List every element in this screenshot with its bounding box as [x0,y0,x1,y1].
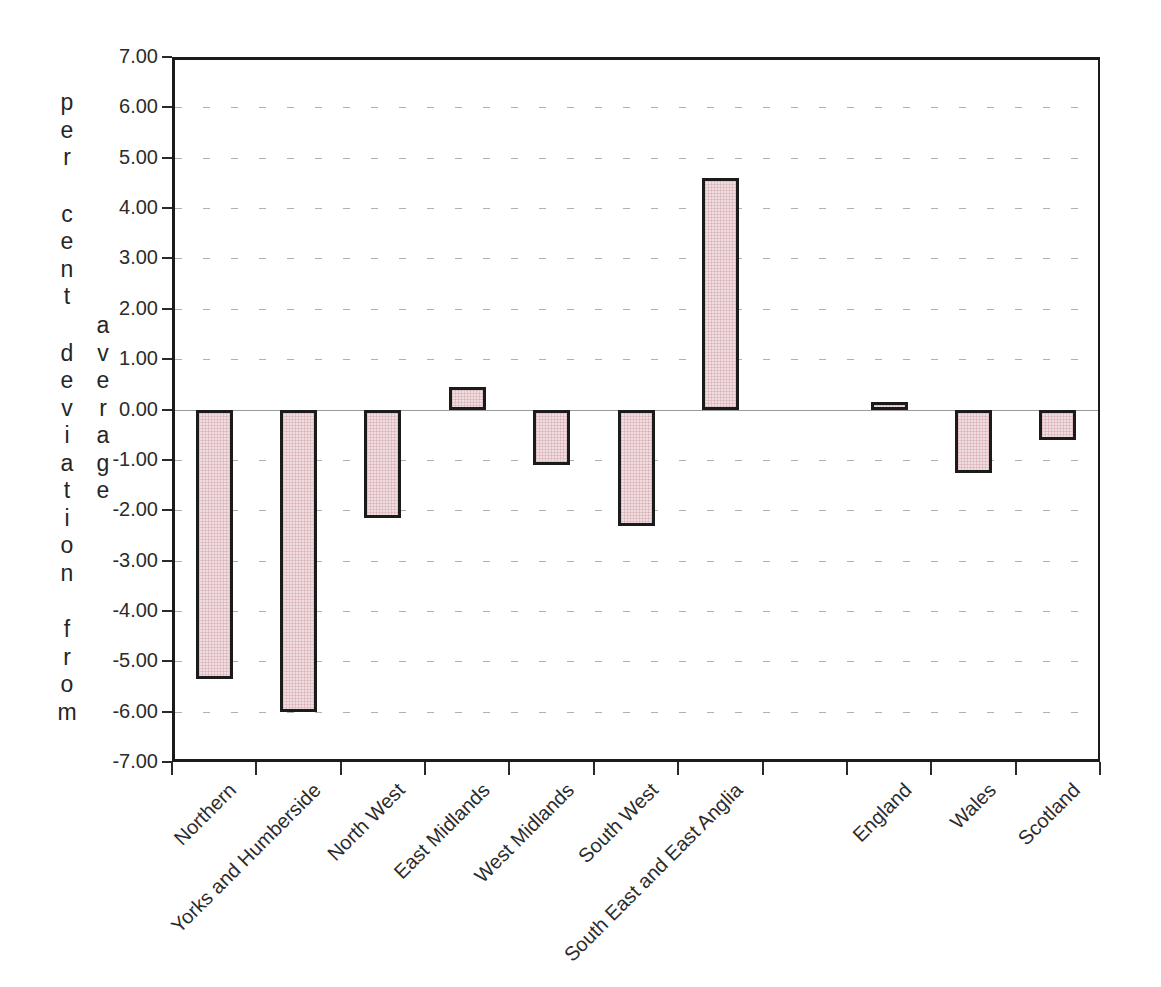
bar-scotland [1039,410,1076,440]
y-axis-tick [162,560,172,562]
bar-east-midlands [449,387,486,410]
x-axis-tick [677,762,679,775]
y-tick-label-5.00: 5.00 [78,146,158,169]
x-axis-tick [255,762,257,775]
x-axis-tick [171,762,173,775]
x-category-label-yorks-and-humberside: Yorks and Humberside [166,778,326,938]
y-tick-label-1.00: 1.00 [78,347,158,370]
x-axis-tick [762,762,764,775]
y-tick-label-2.00: 2.00 [78,297,158,320]
y-axis-tick [162,257,172,259]
y-axis-tick [162,610,172,612]
y-tick-label-7.00: 7.00 [78,45,158,68]
y-tick-label--3.00: -3.00 [78,549,158,572]
x-category-label-south-west: South West [573,778,663,868]
y-tick-label--5.00: -5.00 [78,649,158,672]
y-axis-tick [162,509,172,511]
y-axis-tick [162,308,172,310]
x-category-label-scotland: Scotland [1013,778,1085,850]
x-category-label-northern: Northern [169,778,241,850]
y-tick-label-3.00: 3.00 [78,246,158,269]
bar-south-west [618,410,655,526]
y-tick-label--4.00: -4.00 [78,599,158,622]
bar-yorks-and-humberside [280,410,317,712]
y-tick-label--6.00: -6.00 [78,700,158,723]
y-axis-tick [162,409,172,411]
y-axis-tick [162,358,172,360]
y-axis-tick [162,660,172,662]
x-axis-tick [593,762,595,775]
x-axis-tick [1099,762,1101,775]
y-axis-tick [162,207,172,209]
x-category-label-north-west: North West [322,778,409,865]
x-category-label-south-east-and-east-anglia: South East and East Anglia [559,778,747,966]
x-axis-tick [424,762,426,775]
y-axis-tick [162,711,172,713]
y-axis-tick [162,157,172,159]
x-category-label-england: England [847,778,916,847]
x-category-label-wales: Wales [945,778,1001,834]
bar-northern [196,410,233,679]
y-tick-label--2.00: -2.00 [78,498,158,521]
y-tick-label-0.00: 0.00 [78,398,158,421]
x-axis-tick [340,762,342,775]
x-axis-tick [846,762,848,775]
y-tick-label--7.00: -7.00 [78,750,158,773]
y-axis-tick [162,459,172,461]
y-tick-label-4.00: 4.00 [78,196,158,219]
y-axis-tick [162,56,172,58]
bar-west-midlands [533,410,570,465]
bar-england [871,402,908,410]
x-axis-tick [1015,762,1017,775]
bar-chart-figure: percentdeviationfrom average 7.006.005.0… [0,0,1161,987]
y-tick-label-6.00: 6.00 [78,95,158,118]
y-tick-label--1.00: -1.00 [78,448,158,471]
x-axis-tick [508,762,510,775]
x-axis-tick [930,762,932,775]
bar-south-east-and-east-anglia [702,178,739,410]
bar-north-west [364,410,401,518]
y-axis-tick [162,106,172,108]
bar-wales [955,410,992,473]
